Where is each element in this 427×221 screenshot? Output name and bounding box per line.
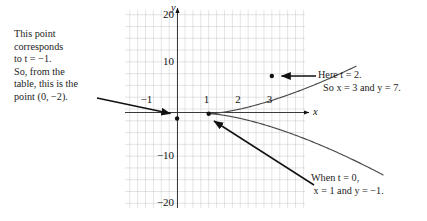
annotation-right-bottom-note: When t = 0, x = 1 and y = −1. [311, 172, 384, 197]
data-point-t-minus1 [175, 116, 179, 120]
parametric-curve-figure: y x −11232010−10−20 This point correspon… [0, 0, 427, 221]
y-tick-0: 20 [152, 8, 174, 20]
x-tick-2: 2 [235, 93, 241, 105]
y-tick-3: −20 [152, 196, 174, 208]
arrow-to-point-t-minus-1 [97, 98, 171, 114]
annotation-right-top-note: Here t = 2. So x = 3 and y = 7. [318, 69, 401, 94]
data-point-t-2 [270, 74, 274, 78]
x-tick-0: −1 [141, 93, 153, 105]
data-point-t-0 [206, 112, 210, 116]
y-tick-2: −10 [152, 149, 174, 161]
axes [125, 8, 309, 208]
annotation-left-note: This point corresponds to t = −1. So, fr… [14, 28, 78, 104]
x-tick-3: 3 [267, 93, 273, 105]
x-tick-1: 1 [204, 93, 210, 105]
y-tick-1: 10 [152, 55, 174, 67]
x-axis-label: x [313, 106, 318, 117]
